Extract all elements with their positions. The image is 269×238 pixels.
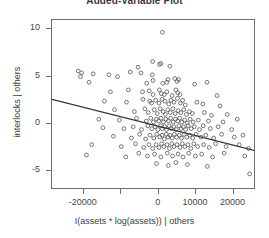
x-tick-label: -20000 xyxy=(53,197,113,207)
added-variable-plot-figure: Added-Variable Plot 1050-5 -200000100002… xyxy=(0,0,269,238)
regression-line-layer xyxy=(52,20,255,189)
y-tick-mark xyxy=(46,28,51,29)
y-axis-label: interlocks | others xyxy=(12,37,22,167)
plot-panel xyxy=(51,19,255,189)
x-axis-label: I(assets * log(assets)) | others xyxy=(0,216,269,226)
y-tick-mark xyxy=(46,123,51,124)
x-tick-mark xyxy=(233,189,234,194)
y-tick-label: 10 xyxy=(9,22,40,32)
x-tick-mark xyxy=(195,189,196,194)
chart-title: Added-Variable Plot xyxy=(0,0,269,6)
y-tick-mark xyxy=(46,170,51,171)
x-tick-mark xyxy=(158,189,159,194)
y-tick-mark xyxy=(46,76,51,77)
x-tick-mark xyxy=(120,189,121,194)
x-tick-mark xyxy=(83,189,84,194)
regression-line xyxy=(52,99,255,150)
x-tick-label: 20000 xyxy=(203,197,263,207)
